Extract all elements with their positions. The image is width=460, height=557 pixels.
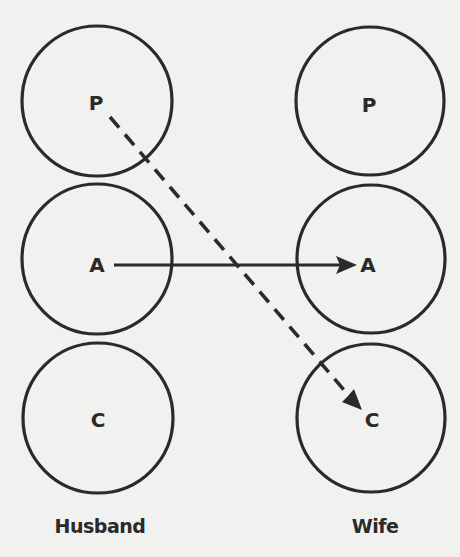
husband-label: Husband — [55, 515, 146, 537]
wife-label: Wife — [352, 515, 399, 537]
arrowhead-icon — [342, 389, 362, 410]
husband-adult-label: A — [89, 253, 105, 277]
wife-adult-label: A — [360, 253, 376, 277]
husband-child-label: C — [91, 408, 106, 432]
wife-parent-label: P — [362, 93, 377, 117]
husband-column: P A C Husband — [22, 26, 173, 537]
wife-column: P A C Wife — [296, 27, 445, 537]
parent-to-child-line — [110, 117, 350, 397]
husband-parent-label: P — [89, 91, 104, 115]
ego-state-diagram: P A C Husband P A C Wife — [0, 0, 460, 557]
wife-child-label: C — [365, 408, 380, 432]
